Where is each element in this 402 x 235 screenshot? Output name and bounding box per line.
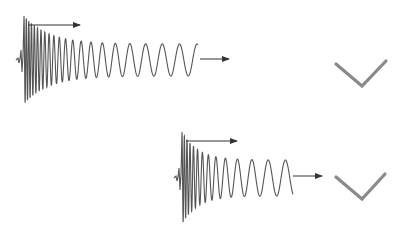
decaying-wave-signal [16,16,198,103]
panel-top [16,16,386,103]
panel-bottom [174,132,385,222]
checkmark-icon [336,61,386,86]
decaying-wave-signal [174,132,293,222]
checkmark-icon [336,174,385,199]
diagram-canvas [0,0,402,235]
